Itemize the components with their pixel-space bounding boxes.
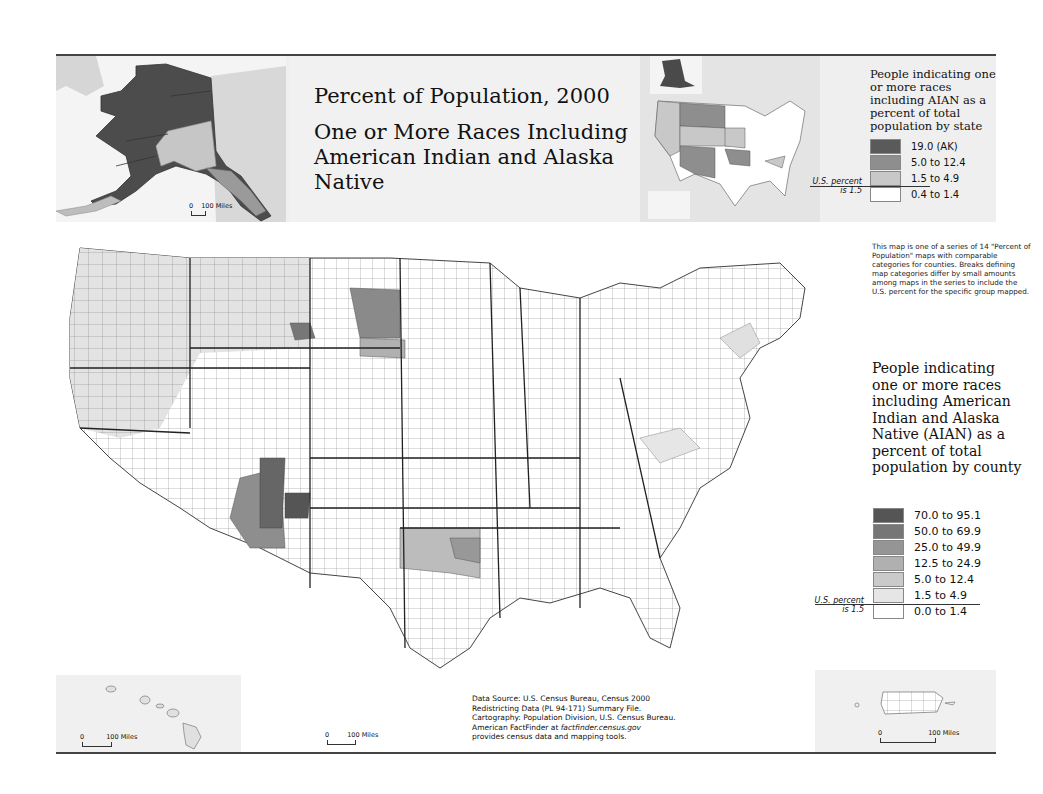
scale-zero-label: 0 [189,202,193,210]
data-source-credits: Data Source: U.S. Census Bureau, Census … [472,694,676,742]
state-legend: People indicating one or more races incl… [820,56,996,222]
main-map-scale-bar: 0 100 Miles [325,731,378,739]
legend-swatch [873,524,904,539]
hawaii-scale-bar: 0 100 Miles [80,733,137,741]
state-legend-item: 5.0 to 12.4 [870,154,966,170]
state-legend-item: 0.4 to 1.4 [870,186,959,202]
state-legend-title: People indicating one or more races incl… [870,68,1000,133]
county-legend-item: 0.0 to 1.4 [873,603,967,619]
us-percent-note: U.S. percent is 1.5 [800,596,864,614]
legend-swatch [870,187,901,202]
us-states-shape-icon [640,56,820,222]
state-overview-map [640,56,820,222]
alaska-shape-icon [56,56,286,222]
puerto-rico-scale-bar: 0 100 Miles [878,729,959,737]
legend-swatch [870,155,901,170]
legend-swatch [873,604,904,619]
county-legend-title: People indicating one or more races incl… [872,360,1022,476]
legend-swatch [873,588,904,603]
map-subtitle: One or More Races Including American Ind… [314,120,644,195]
puerto-rico-inset-map: 0 100 Miles [815,670,996,752]
alaska-scale-bar: 0 100 Miles [189,202,232,210]
legend-swatch [870,139,901,154]
county-legend-item: 50.0 to 69.9 [873,523,981,539]
legend-swatch [870,171,901,186]
legend-swatch [873,540,904,555]
bottom-frame-rule [56,752,996,754]
county-legend-item: 12.5 to 24.9 [873,555,981,571]
factfinder-link[interactable]: factfinder.census.gov [561,723,641,732]
county-legend-item: 5.0 to 12.4 [873,571,974,587]
legend-swatch [873,508,904,523]
scale-distance-label: 100 Miles [201,202,232,210]
hawaii-inset-map: 0 100 Miles [56,675,241,752]
county-legend-item: 1.5 to 4.9 [873,587,967,603]
state-legend-item: 1.5 to 4.9 [870,170,959,186]
contiguous-us-county-map-icon [60,228,840,678]
alaska-inset-map: 0 100 Miles [56,56,286,222]
state-legend-item: 19.0 (AK) [870,138,958,154]
map-title: Percent of Population, 2000 [314,84,610,108]
county-legend-item: 70.0 to 95.1 [873,507,981,523]
us-percent-note: U.S. percent is 1.5 [800,177,862,195]
legend-swatch [873,572,904,587]
title-panel: Percent of Population, 2000 One or More … [290,56,640,222]
legend-swatch [873,556,904,571]
main-county-map [60,228,840,678]
county-legend-item: 25.0 to 49.9 [873,539,981,555]
series-note: This map is one of a series of 14 "Perce… [872,242,1032,296]
